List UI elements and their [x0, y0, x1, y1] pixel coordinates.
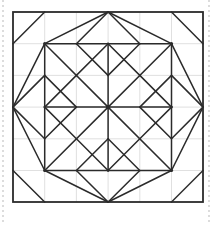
quilt-pattern-svg: [0, 0, 215, 225]
bottom-mid-node: [107, 169, 110, 172]
bottom-left-node: [43, 169, 46, 172]
top-left-node: [43, 42, 46, 45]
center-node: [106, 105, 110, 109]
bottom-right-node: [170, 169, 173, 172]
right-mid-node: [170, 106, 173, 109]
top-right-node: [170, 42, 173, 45]
left-mid-node: [43, 106, 46, 109]
quilt-block-figure: [0, 0, 215, 225]
top-mid-node: [107, 42, 110, 45]
